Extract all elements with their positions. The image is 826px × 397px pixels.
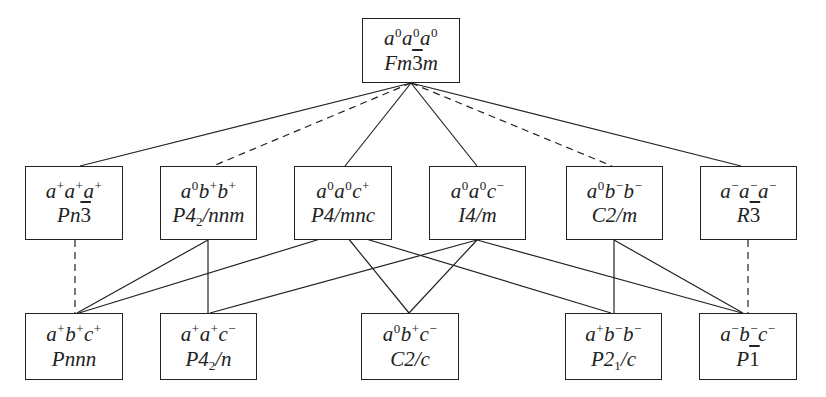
tilt-notation: a+b+c+ — [46, 322, 101, 346]
tilt-notation: a0a0c+ — [316, 179, 370, 203]
tilt-notation: a+a+c− — [181, 322, 236, 346]
node-c2-c: a0b+c−C2/c — [361, 313, 459, 380]
edge-n3-n10-solid — [343, 232, 611, 313]
tilt-notation: a+a+a+ — [46, 179, 103, 203]
tilt-notation: a+b−b− — [585, 322, 642, 346]
tilt-notation: a0b−b− — [587, 179, 643, 203]
tilt-notation: a0b+b+ — [181, 179, 237, 203]
node-pnnn: a+b+c+Pnnn — [25, 313, 123, 380]
tilt-notation: a0b+c− — [383, 322, 438, 346]
tilt-notation: a−b−c− — [720, 322, 775, 346]
space-group-symbol: Fm3m — [384, 51, 438, 75]
node-i4-m: a0a0c−I4/m — [429, 166, 526, 240]
edge-n3-n7-solid — [79, 232, 343, 313]
space-group-symbol: P42/n — [185, 347, 231, 371]
node-fm-3m: a0a0a0Fm3m — [362, 18, 460, 83]
edge-n0-n6-solid — [411, 83, 741, 166]
space-group-symbol: C2/m — [592, 203, 638, 227]
space-group-symbol: P21/c — [591, 347, 636, 371]
space-group-symbol: P4/mnc — [311, 203, 375, 227]
node-p4-mnc: a0a0c+P4/mnc — [294, 166, 392, 240]
edge-n4-n11-solid — [477, 240, 742, 313]
node-r-3: a−a−a−R3 — [700, 166, 797, 240]
space-group-symbol: R3 — [737, 203, 760, 227]
node-pn-3: a+a+a+Pn3 — [25, 166, 123, 240]
edge-n0-n4-solid — [411, 83, 477, 166]
tilt-notation: a−a−a− — [720, 179, 777, 203]
space-group-symbol: C2/c — [390, 347, 430, 371]
node-p4-2-nnm: a0b+b+P42/nnm — [160, 166, 257, 240]
edge-n2-n7-solid — [77, 240, 208, 313]
subgroup-diagram: a0a0a0Fm3ma+a+a+Pn3a0b+b+P42/nnma0a0c+P4… — [0, 0, 826, 397]
edge-n4-n8-solid — [210, 240, 477, 313]
edge-n0-n2-dashed — [213, 83, 411, 166]
edge-n0-n3-solid — [345, 83, 411, 166]
node-c2-m: a0b−b−C2/m — [566, 166, 663, 240]
node-p4-2-n: a+a+c−P42/n — [160, 313, 257, 380]
edge-n4-n9-solid — [409, 240, 477, 313]
space-group-symbol: Pnnn — [52, 347, 96, 371]
edge-n0-n5-dashed — [411, 83, 612, 166]
space-group-symbol: I4/m — [458, 203, 497, 227]
tilt-notation: a0a0a0 — [384, 26, 438, 50]
space-group-symbol: P42/nnm — [173, 203, 245, 227]
edge-n3-n9-solid — [343, 232, 409, 313]
tilt-notation: a0a0c− — [451, 179, 505, 203]
space-group-symbol: P1 — [736, 347, 759, 371]
edge-n5-n11-solid — [614, 240, 743, 313]
edge-n0-n1-solid — [80, 83, 411, 166]
space-group-symbol: Pn3 — [57, 203, 91, 227]
node-p-1: a−b−c−P1 — [699, 313, 797, 380]
node-p2-1-c: a+b−b−P21/c — [565, 313, 662, 380]
